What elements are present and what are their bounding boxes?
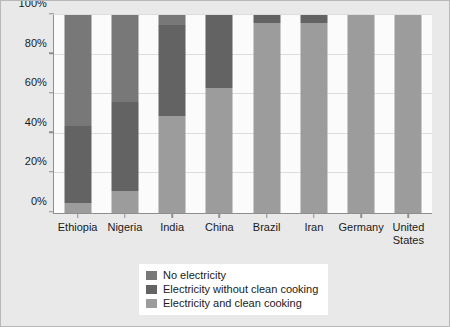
legend-item[interactable]: No electricity [146,268,318,282]
bar-segment[interactable] [206,15,233,88]
x-axis-tick-mark [219,213,221,218]
stacked-bar[interactable] [64,15,91,213]
stacked-bar[interactable] [300,15,327,213]
legend-swatch-icon [146,285,157,294]
bar-group[interactable] [196,15,243,213]
y-axis-tick-label: 80% [25,37,47,49]
legend-label: Electricity without clean cooking [163,283,318,295]
chart-legend: No electricityElectricity without clean … [139,264,328,315]
legend-swatch-icon [146,271,157,280]
bar-segment[interactable] [111,15,138,102]
plot-area: 0%20%40%60%80%100% EthiopiaNigeriaIndiaC… [53,15,432,214]
bar-group[interactable] [54,15,101,213]
legend-label: Electricity and clean cooking [163,297,302,309]
bar-segment[interactable] [64,203,91,213]
x-axis-tick-mark [171,213,173,218]
stacked-bar[interactable] [159,15,186,213]
bar-segment[interactable] [159,116,186,213]
bar-segment[interactable] [300,23,327,213]
bar-segment[interactable] [111,191,138,213]
stacked-bar[interactable] [111,15,138,213]
x-axis-tick-mark [124,213,126,218]
legend-label: No electricity [163,269,226,281]
y-axis-tick-label: 60% [25,76,47,88]
bar-segment[interactable] [348,15,375,213]
bar-group[interactable] [338,15,385,213]
x-axis-tick-mark [408,213,410,218]
bar-group[interactable] [243,15,290,213]
bar-group[interactable] [101,15,148,213]
bar-segment[interactable] [253,15,280,23]
bar-segment[interactable] [111,102,138,191]
x-axis-tick-label: United States [376,221,440,247]
stacked-bar[interactable] [348,15,375,213]
x-axis-tick-mark [360,213,362,218]
bar-group[interactable] [149,15,196,213]
y-axis-tick-label: 40% [25,116,47,128]
legend-swatch-icon [146,299,157,308]
stacked-bar[interactable] [253,15,280,213]
x-axis-tick-mark [313,213,315,218]
bar-segment[interactable] [300,15,327,23]
bar-segment[interactable] [159,25,186,116]
bar-segment[interactable] [395,15,422,213]
y-axis-tick-label: 0% [31,195,47,207]
y-axis-tick-label: 100% [18,0,47,9]
legend-item[interactable]: Electricity and clean cooking [146,296,318,310]
bar-group[interactable] [290,15,337,213]
bar-segment[interactable] [64,15,91,126]
bar-segment[interactable] [64,126,91,203]
bar-segment[interactable] [253,23,280,213]
bar-segment[interactable] [159,15,186,25]
stacked-bar[interactable] [395,15,422,213]
y-axis-tick-label: 20% [25,155,47,167]
x-axis-tick-mark [77,213,79,218]
chart-figure: 0%20%40%60%80%100% EthiopiaNigeriaIndiaC… [0,0,450,327]
bar-group[interactable] [385,15,432,213]
bar-segment[interactable] [206,88,233,213]
stacked-bar[interactable] [206,15,233,213]
x-axis-tick-mark [266,213,268,218]
legend-item[interactable]: Electricity without clean cooking [146,282,318,296]
